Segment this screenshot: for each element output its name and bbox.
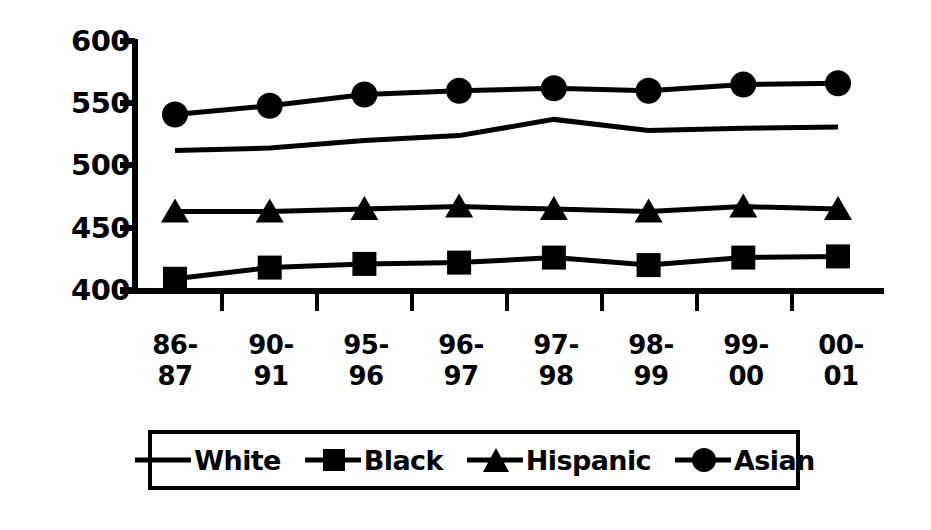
x-axis-tick-label-line1: 97- (511, 330, 601, 361)
square-marker-icon (303, 446, 363, 474)
legend-label: White (194, 447, 280, 474)
series-asian (162, 70, 851, 127)
circle-marker-icon (541, 75, 567, 101)
chart-container: 600 550 500 450 400 86- 87 90- (0, 0, 931, 530)
triangle-marker-icon (465, 446, 525, 474)
legend-item-black[interactable]: Black (303, 446, 443, 474)
x-axis-tick-label-line2: 00 (701, 361, 791, 392)
series-line (175, 119, 838, 150)
x-axis-tick-label-line2: 98 (511, 361, 601, 392)
series-hispanic (161, 194, 852, 223)
square-marker-icon (731, 246, 755, 270)
x-axis-tick-label: 97- 98 (511, 330, 601, 392)
legend: White Black Hispanic Asian (148, 430, 800, 490)
line-icon (133, 446, 193, 474)
x-axis-tick-label-line1: 99- (701, 330, 791, 361)
x-axis-tick-label: 90- 91 (226, 330, 316, 392)
circle-marker-icon (730, 72, 756, 98)
x-axis-tick-label: 98- 99 (606, 330, 696, 392)
circle-marker-icon (636, 78, 662, 104)
square-marker-icon (826, 244, 850, 268)
legend-item-asian[interactable]: Asian (673, 446, 815, 474)
x-axis-tick-label-line1: 96- (416, 330, 506, 361)
legend-label: Black (364, 447, 443, 474)
square-marker-icon (258, 256, 282, 280)
x-axis-tick-label-line1: 90- (226, 330, 316, 361)
series-white (175, 119, 838, 150)
square-marker-icon (447, 251, 471, 275)
circle-marker-icon (257, 93, 283, 119)
series-layer (161, 70, 852, 290)
square-marker-icon (542, 246, 566, 270)
circle-marker-icon (162, 102, 188, 128)
x-axis-tick-label-line2: 99 (606, 361, 696, 392)
legend-label: Hispanic (526, 447, 651, 474)
x-axis-tick-label-line1: 00- (796, 330, 886, 361)
x-axis-tick-label-line2: 97 (416, 361, 506, 392)
x-axis-tick-label-line1: 95- (321, 330, 411, 361)
x-axis-tick-label-line2: 87 (130, 361, 220, 392)
circle-marker-icon (446, 78, 472, 104)
x-axis-tick-label: 99- 00 (701, 330, 791, 392)
x-axis-tick-label: 96- 97 (416, 330, 506, 392)
legend-item-white[interactable]: White (133, 446, 280, 474)
x-axis-tick-label: 00- 01 (796, 330, 886, 392)
square-marker-icon (163, 267, 187, 291)
x-axis-tick-label: 86- 87 (130, 330, 220, 392)
circle-marker-icon (673, 446, 733, 474)
x-axis-tick-label-line1: 86- (130, 330, 220, 361)
square-marker-icon (637, 253, 661, 277)
x-axis-tick-label-line1: 98- (606, 330, 696, 361)
x-axis-tick-label: 95- 96 (321, 330, 411, 392)
x-axis-tick-label-line2: 01 (796, 361, 886, 392)
square-marker-icon (352, 252, 376, 276)
circle-marker-icon (825, 70, 851, 96)
legend-label: Asian (734, 447, 815, 474)
series-black (163, 244, 850, 290)
circle-marker-icon (351, 82, 377, 108)
x-axis-tick-label-line2: 91 (226, 361, 316, 392)
legend-item-hispanic[interactable]: Hispanic (465, 446, 651, 474)
x-axis-tick-label-line2: 96 (321, 361, 411, 392)
